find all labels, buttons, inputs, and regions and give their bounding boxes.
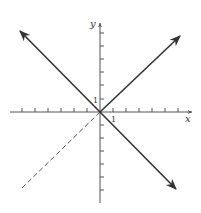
- coordinate-plane: y x 1 1: [0, 0, 201, 213]
- y-axis-label: y: [89, 18, 96, 29]
- x-tick-label-1: 1: [111, 115, 116, 124]
- y-tick-label-1: 1: [93, 96, 98, 105]
- line-y-equals-neg-x: [20, 31, 176, 189]
- line-y-equals-x-dashed: [21, 112, 100, 189]
- x-axis-label: x: [185, 113, 191, 124]
- line-y-equals-x-solid: [100, 36, 180, 112]
